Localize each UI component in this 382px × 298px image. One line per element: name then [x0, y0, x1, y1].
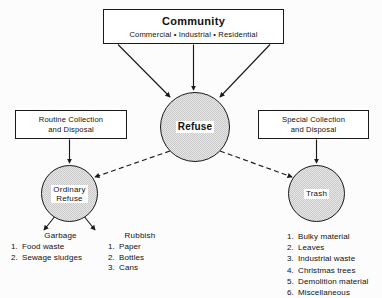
list-item-label: Christmas trees — [298, 265, 356, 276]
edge-refuse-to-trash-dashed — [220, 151, 292, 177]
edge-community-to-refuse-left — [118, 45, 170, 98]
community-title: Community — [162, 15, 225, 28]
list-item: 4.Christmas trees — [287, 265, 382, 276]
routine-collection-node: Routine Collection and Disposal — [15, 110, 127, 139]
rubbish-heading: Rubbish — [102, 231, 178, 240]
special-line-1: Special Collection — [282, 115, 345, 125]
refuse-label: Refuse — [176, 121, 215, 133]
list-item-number: 2. — [11, 253, 22, 264]
routine-line-2: and Disposal — [48, 125, 94, 135]
list-item: 3.Cans — [108, 263, 178, 274]
list-item-label: Paper — [119, 242, 141, 253]
garbage-heading: Garbage — [17, 231, 104, 240]
list-item: 2.Bottles — [108, 253, 178, 264]
refuse-flow-diagram: Community Commercial • Industrial • Resi… — [0, 0, 382, 298]
list-item-number: 3. — [108, 263, 119, 274]
ordinary-refuse-node: Ordinary Refuse — [41, 165, 98, 222]
trash-items: 1.Bulky material2.Leaves3.Industrial was… — [287, 231, 382, 298]
list-item-label: Leaves — [298, 242, 324, 253]
trash-category-list: 1.Bulky material2.Leaves3.Industrial was… — [287, 231, 382, 298]
list-item-number: 1. — [108, 242, 119, 253]
list-item-label: Miscellaneous — [298, 287, 350, 298]
community-subtitle: Commercial • Industrial • Residential — [129, 29, 257, 40]
list-item-label: Cans — [119, 263, 138, 274]
list-item-number: 5. — [287, 276, 298, 287]
list-item-number: 2. — [287, 242, 298, 253]
trash-label: Trash — [304, 189, 329, 199]
list-item: 1.Food waste — [11, 242, 104, 253]
list-item-number: 4. — [287, 265, 298, 276]
list-item: 1.Paper — [108, 242, 178, 253]
garbage-items: 1.Food waste2.Sewage sludges — [11, 242, 104, 263]
trash-node: Trash — [288, 165, 345, 222]
list-item-label: Food waste — [22, 242, 64, 253]
refuse-node: Refuse — [160, 92, 230, 162]
garbage-list: Garbage 1.Food waste2.Sewage sludges — [11, 231, 104, 263]
rubbish-items: 1.Paper2.Bottles3.Cans — [108, 242, 178, 274]
special-collection-node: Special Collection and Disposal — [258, 110, 369, 139]
rubbish-list: Rubbish 1.Paper2.Bottles3.Cans — [108, 231, 178, 274]
list-item: 5.Demolition material — [287, 276, 382, 287]
list-item: 1.Bulky material — [287, 231, 382, 242]
community-node: Community Commercial • Industrial • Resi… — [103, 9, 284, 44]
list-item-label: Demolition material — [298, 276, 368, 287]
list-item-number: 2. — [108, 253, 119, 264]
list-item-label: Bulky material — [298, 231, 350, 242]
ordinary-refuse-label: Ordinary Refuse — [51, 185, 87, 203]
edge-refuse-to-ordinary-dashed — [95, 151, 170, 177]
edge-community-to-refuse-right — [220, 45, 270, 98]
list-item-label: Industrial waste — [298, 253, 355, 264]
routine-line-1: Routine Collection — [39, 115, 103, 125]
list-item-number: 1. — [11, 242, 22, 253]
list-item-label: Sewage sludges — [22, 253, 82, 264]
list-item-number: 6. — [287, 287, 298, 298]
special-line-2: and Disposal — [291, 125, 337, 135]
list-item-number: 3. — [287, 253, 298, 264]
list-item: 2.Sewage sludges — [11, 253, 104, 264]
list-item-label: Bottles — [119, 253, 144, 264]
list-item: 3.Industrial waste — [287, 253, 382, 264]
list-item: 6.Miscellaneous — [287, 287, 382, 298]
list-item: 2.Leaves — [287, 242, 382, 253]
list-item-number: 1. — [287, 231, 298, 242]
